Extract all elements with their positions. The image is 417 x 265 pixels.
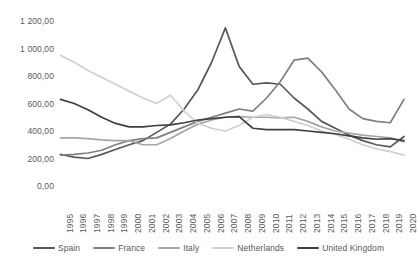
series-line (61, 28, 405, 159)
series-lines (61, 28, 405, 159)
legend-swatch-icon (297, 247, 319, 249)
series-line (61, 99, 405, 140)
line-chart: 1 200,001 000,00800,00600,00400,00200,00… (0, 0, 417, 265)
legend-swatch-icon (93, 247, 115, 249)
legend-item[interactable]: United Kingdom (297, 243, 384, 253)
chart-legend: SpainFranceItalyNetherlandsUnited Kingdo… (0, 240, 417, 256)
legend-item[interactable]: Netherlands (212, 243, 284, 253)
legend-swatch-icon (212, 247, 234, 249)
legend-item[interactable]: France (93, 243, 145, 253)
legend-item-label: Netherlands (237, 243, 284, 253)
plot-area (0, 0, 417, 265)
legend-item-label: Italy (183, 243, 199, 253)
legend-item-label: United Kingdom (322, 243, 384, 253)
legend-item-label: France (118, 243, 145, 253)
legend-item[interactable]: Italy (158, 243, 199, 253)
legend-item-label: Spain (58, 243, 80, 253)
legend-item[interactable]: Spain (33, 243, 80, 253)
legend-swatch-icon (33, 247, 55, 249)
legend-swatch-icon (158, 247, 180, 249)
